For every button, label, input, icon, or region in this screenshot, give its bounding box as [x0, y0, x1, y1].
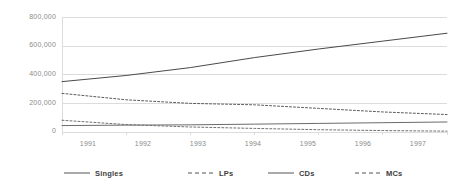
legend-swatch-dashed-icon	[355, 169, 381, 177]
legend-item-singles[interactable]: Singles	[64, 163, 123, 183]
legend-item-cds[interactable]: CDs	[268, 163, 315, 183]
legend-swatch-solid-icon	[268, 169, 294, 177]
legend-item-mcs[interactable]: MCs	[355, 163, 402, 183]
legend-label: MCs	[386, 169, 402, 178]
chart-legend: Singles LPs CDs MCs	[0, 163, 465, 185]
legend-swatch-dashed-icon	[188, 169, 214, 177]
plot-area	[0, 0, 465, 188]
legend-item-lps[interactable]: LPs	[188, 163, 233, 183]
legend-label: LPs	[219, 169, 233, 178]
legend-label: Singles	[95, 169, 123, 178]
legend-label: CDs	[299, 169, 315, 178]
legend-swatch-solid-icon	[64, 169, 90, 177]
series-lines	[62, 33, 447, 131]
gridlines	[62, 18, 447, 133]
series-line-mcs	[62, 120, 447, 131]
series-line-lps	[62, 93, 447, 114]
line-chart: 800,000 600,000 400,000 200,000 0 1991 1…	[0, 0, 465, 188]
